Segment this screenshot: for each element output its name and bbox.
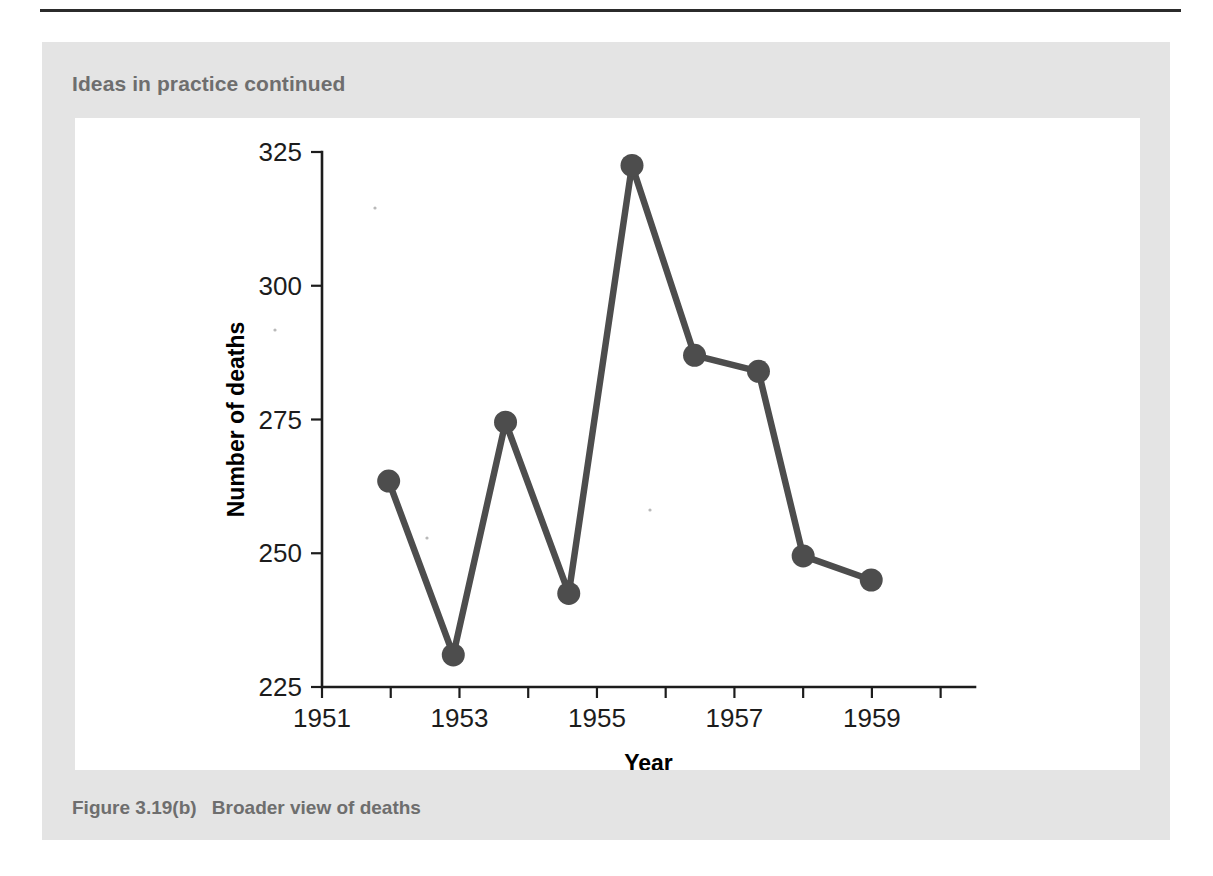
chart-canvas: 19511953195519571959 225250275300325 Yea…: [75, 118, 1140, 770]
y-tick-label: 300: [259, 271, 302, 301]
figure-caption-text: Broader view of deaths: [212, 797, 421, 818]
paper-speck: [373, 206, 376, 209]
data-point-marker: [792, 544, 815, 567]
paper-speck: [273, 328, 276, 331]
data-point-marker: [621, 154, 644, 177]
series-polyline: [389, 165, 872, 655]
figure-caption: Figure 3.19(b) Broader view of deaths: [72, 797, 421, 819]
x-tick-label: 1951: [293, 703, 351, 733]
data-points: [377, 154, 883, 667]
data-line: [389, 165, 872, 655]
chart-axes: [322, 152, 975, 687]
data-point-marker: [442, 643, 465, 666]
x-tick-label: 1955: [568, 703, 626, 733]
y-tick-label: 275: [259, 405, 302, 435]
line-chart: 19511953195519571959 225250275300325 Yea…: [75, 118, 1140, 770]
x-tick-label: 1959: [843, 703, 901, 733]
data-point-marker: [747, 360, 770, 383]
panel-header-title: Ideas in practice continued: [72, 72, 345, 96]
figure-caption-number: Figure 3.19(b): [72, 797, 197, 818]
x-tick-label: 1957: [705, 703, 763, 733]
x-axis-tick-labels: 19511953195519571959: [293, 703, 901, 733]
y-axis-ticks: [311, 152, 322, 687]
y-tick-label: 325: [259, 137, 302, 167]
page-root: Ideas in practice continued 195119531955…: [0, 0, 1213, 876]
scan-specks: [273, 206, 651, 539]
y-axis-tick-labels: 225250275300325: [259, 137, 302, 702]
x-axis-title: Year: [624, 750, 673, 770]
x-axis-ticks: [322, 687, 941, 698]
data-point-marker: [683, 344, 706, 367]
y-axis-title: Number of deaths: [223, 322, 249, 518]
page-top-rule: [40, 9, 1181, 12]
data-point-marker: [377, 470, 400, 493]
x-tick-label: 1953: [431, 703, 489, 733]
y-tick-label: 250: [259, 538, 302, 568]
data-point-marker: [860, 569, 883, 592]
data-point-marker: [557, 582, 580, 605]
axis-lines: [322, 152, 975, 687]
paper-speck: [425, 536, 428, 539]
paper-speck: [648, 508, 651, 511]
data-point-marker: [494, 411, 517, 434]
y-tick-label: 225: [259, 672, 302, 702]
